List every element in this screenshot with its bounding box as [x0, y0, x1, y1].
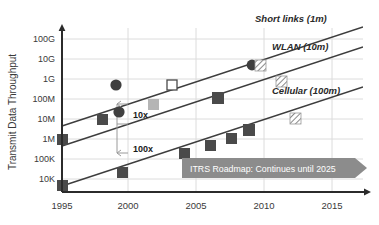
marker-cellular-2008: [243, 124, 255, 136]
y-tick-1G: 1G: [43, 74, 55, 84]
annotation-10x: 10x: [133, 110, 148, 120]
marker-short-links-2009-hatched: [255, 60, 266, 71]
marker-wlan-2006: [212, 92, 224, 104]
marker-cellular-2004: [179, 148, 190, 159]
x-tick-2005: 2005: [185, 200, 206, 211]
chart-container: 10x 100x Short links (1m): [0, 0, 379, 225]
x-tick-2015: 2015: [321, 200, 342, 211]
y-tick-1M: 1M: [42, 134, 55, 144]
y-tick-100K: 100K: [34, 154, 55, 164]
marker-short-links-1999: [110, 79, 121, 90]
marker-short-links-1996: [113, 106, 124, 117]
throughput-scatter-chart: 10x 100x Short links (1m): [0, 0, 379, 225]
banner-label: ITRS Roadmap: Continues until 2025: [190, 164, 336, 174]
series-label-wlan: WLAN (10m): [272, 41, 328, 52]
marker-cellular-1999: [117, 167, 128, 178]
series-label-cellular: Cellular (100m): [272, 85, 340, 96]
x-tick-2000: 2000: [117, 200, 138, 211]
y-tick-100G: 100G: [33, 34, 55, 44]
marker-wlan-2002-light: [148, 99, 159, 110]
series-label-short-links: Short links (1m): [255, 13, 327, 24]
x-tick-1995: 1995: [51, 200, 72, 211]
y-tick-100M: 100M: [32, 94, 55, 104]
y-tick-10M: 10M: [37, 114, 55, 124]
y-axis-title: Transmit Data Throughput: [7, 54, 18, 170]
y-tick-10K: 10K: [39, 174, 55, 184]
marker-short-links-2002-open: [167, 80, 177, 90]
itrs-roadmap-banner: ITRS Roadmap: Continues until 2025: [182, 158, 367, 178]
marker-wlan-1998: [97, 114, 108, 125]
annotation-100x: 100x: [133, 144, 153, 154]
marker-cellular-2012-hatched: [290, 113, 301, 124]
y-tick-10G: 10G: [38, 54, 55, 64]
x-tick-2010: 2010: [253, 200, 274, 211]
marker-cellular-2007: [226, 133, 237, 144]
marker-cellular-2006: [205, 140, 216, 151]
